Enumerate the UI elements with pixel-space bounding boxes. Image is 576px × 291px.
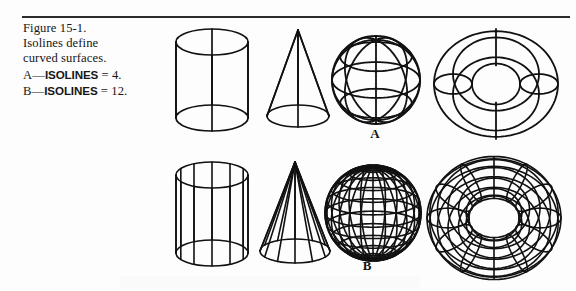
caption-line-2: Isolines define xyxy=(23,36,163,51)
caption-a-keyword: ISOLINES xyxy=(45,68,98,81)
caption-a-suffix: = 4. xyxy=(98,68,121,82)
caption-b-suffix: = 12. xyxy=(98,84,128,98)
wireframe-torus-a xyxy=(428,34,564,130)
caption-b-keyword: ISOLINES xyxy=(44,84,97,97)
caption-a-prefix: A— xyxy=(23,68,45,82)
scan-artifact xyxy=(120,276,420,288)
wireframe-sphere-b xyxy=(318,157,428,269)
caption-line-3: curved surfaces. xyxy=(23,51,163,66)
figure-page: Figure 15-1. Isolines define curved surf… xyxy=(0,0,576,291)
wireframe-sphere-a xyxy=(322,24,430,136)
caption-line-1: Figure 15-1. xyxy=(23,21,163,36)
row-label-a: A xyxy=(360,126,390,142)
horizontal-rule xyxy=(22,16,570,18)
row-label-b: B xyxy=(352,258,382,274)
wireframe-cylinder-b xyxy=(166,157,258,269)
wireframe-torus-b xyxy=(424,168,564,264)
caption-line-a: A—ISOLINES = 4. xyxy=(23,67,163,83)
caption-b-prefix: B— xyxy=(23,84,44,98)
caption-line-b: B—ISOLINES = 12. xyxy=(23,83,163,99)
figure-caption: Figure 15-1. Isolines define curved surf… xyxy=(23,21,163,99)
wireframe-cylinder-a xyxy=(166,24,258,136)
